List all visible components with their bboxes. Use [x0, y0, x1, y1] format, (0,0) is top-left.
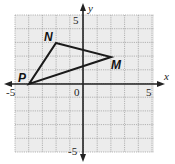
tick-label-origin: 0 [74, 86, 80, 98]
vertex-label-m: M [111, 58, 122, 72]
y-axis-label: y [87, 2, 93, 14]
y-axis-up-arrow-icon [80, 3, 86, 11]
vertex-label-p: P [18, 71, 27, 85]
coordinate-plane: x y 5 -5 -5 5 0 N M P [0, 0, 175, 164]
tick-label-y-max: 5 [73, 14, 79, 26]
y-axis-down-arrow-icon [80, 154, 86, 162]
tick-label-y-min: -5 [68, 145, 78, 157]
x-axis-label: x [163, 70, 169, 82]
vertex-label-n: N [44, 30, 53, 44]
tick-label-x-max: 5 [146, 86, 152, 98]
tick-label-x-min: -5 [6, 86, 16, 98]
